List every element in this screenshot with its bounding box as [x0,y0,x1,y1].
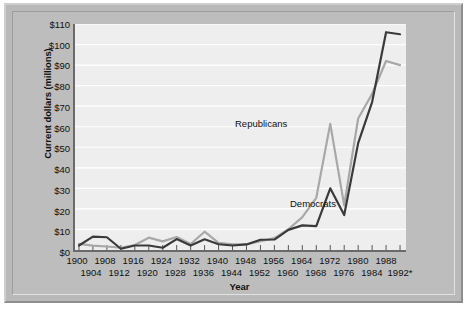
y-tick-label: $0 [27,247,70,258]
x-tick-label: 1928 [165,267,186,278]
x-tick-label: 1992* [388,267,413,278]
x-tick-label: 1920 [137,267,158,278]
x-tick-label: 1972 [319,255,340,266]
y-axis-tick-labels: $0$10$20$30$40$50$60$70$80$90$100$110 [27,24,70,252]
y-tick-label: $30 [27,184,70,195]
y-tick-label: $10 [27,226,70,237]
x-tick-label: 1980 [347,255,368,266]
x-tick-label: 1984 [361,267,382,278]
x-tick-label: 1988 [375,255,396,266]
x-tick-label: 1948 [235,255,256,266]
x-tick-label: 1908 [95,255,116,266]
y-tick-label: $60 [27,122,70,133]
figure-inset-frame: Current dollars (millions) $0$10$20$30$4… [12,11,455,295]
x-tick-label: 1976 [333,267,354,278]
x-tick-label: 1956 [263,255,284,266]
y-tick-label: $50 [27,143,70,154]
y-tick-label: $70 [27,101,70,112]
y-tick-label: $90 [27,60,70,71]
y-tick-label: $80 [27,81,70,92]
plot-area [73,24,406,252]
series-line-republicans [79,61,400,248]
x-tick-label: 1916 [123,255,144,266]
x-axis-tick-labels: 1900190419081912191619201924192819321936… [73,255,413,281]
x-tick-label: 1900 [66,255,87,266]
y-tick-label: $110 [27,19,70,30]
series-label-republicans: Republicans [235,118,287,129]
x-tick-label: 1968 [305,267,326,278]
x-tick-label: 1932 [179,255,200,266]
x-tick-label: 1936 [193,267,214,278]
y-tick-label: $40 [27,164,70,175]
x-tick-label: 1924 [151,255,172,266]
series-label-democrats: Democrats [290,198,336,209]
x-tick-label: 1944 [221,267,242,278]
y-tick-label: $100 [27,39,70,50]
x-tick-label: 1952 [249,267,270,278]
y-tick-label: $20 [27,205,70,216]
x-tick-label: 1904 [80,267,101,278]
x-axis-title: Year [73,281,406,292]
x-tick-label: 1960 [277,267,298,278]
figure-panel: Current dollars (millions) $0$10$20$30$4… [4,3,463,303]
line-chart-svg [75,24,406,250]
x-tick-label: 1912 [109,267,130,278]
x-tick-label: 1940 [207,255,228,266]
x-tick-label: 1964 [291,255,312,266]
